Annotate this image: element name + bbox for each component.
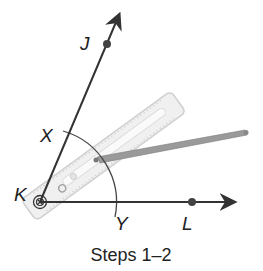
label-j: J (79, 33, 90, 54)
label-l: L (182, 213, 193, 234)
compass-hinge-icon (94, 158, 99, 163)
label-k: K (14, 184, 28, 205)
angle-construction-diagram: J X K Y L Steps 1–2 (0, 0, 263, 271)
point-j (103, 40, 111, 48)
label-x: X (39, 125, 54, 146)
point-l (188, 198, 196, 206)
label-y: Y (115, 213, 129, 234)
caption: Steps 1–2 (90, 245, 171, 265)
